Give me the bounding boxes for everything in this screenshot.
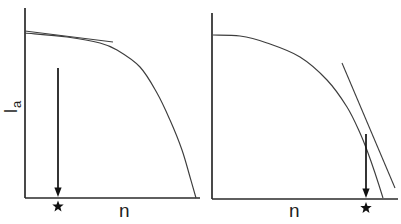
tangent-line-left [25,31,113,42]
tangent-line-right [342,63,395,188]
figure-canvas [0,0,401,224]
star-marker-left [52,201,63,212]
response-curve-right [213,35,383,198]
dual-panel-plot-figure: Ia n n [0,0,401,224]
response-curve-left [25,33,196,198]
arrowhead-right [362,189,369,199]
arrowhead-left [54,188,61,198]
star-marker-right [360,202,371,213]
